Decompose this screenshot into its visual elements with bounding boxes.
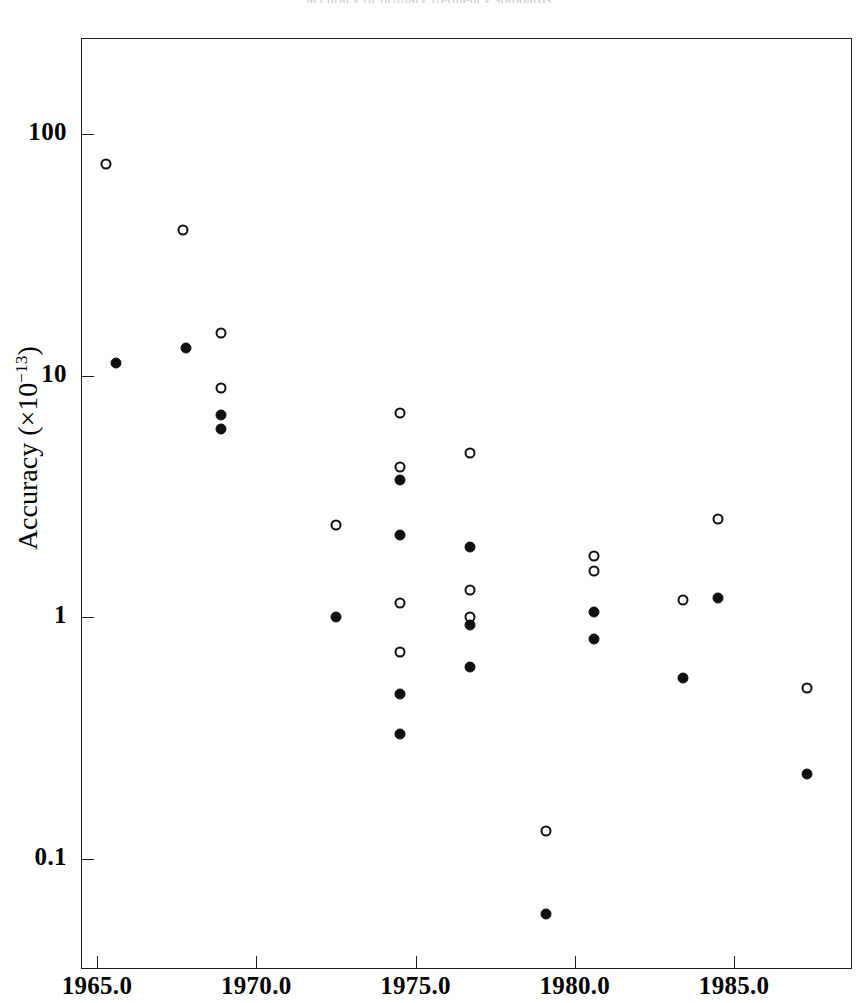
data-point-open (802, 682, 813, 693)
data-point-filled (216, 424, 227, 435)
y-axis-label-text: Accuracy (×10 (12, 383, 43, 550)
x-tick-label: 1980.0 (540, 972, 611, 1000)
x-tick-label: 1985.0 (699, 972, 770, 1000)
data-point-open (588, 550, 599, 561)
data-point-filled (464, 542, 475, 553)
data-point-filled (216, 409, 227, 420)
data-point-filled (588, 607, 599, 618)
data-point-open (394, 461, 405, 472)
cropped-title-text: accuracy of primary frequency standards (0, 0, 858, 3)
data-point-filled (394, 475, 405, 486)
data-point-filled (588, 634, 599, 645)
x-tick-label: 1975.0 (380, 972, 451, 1000)
y-axis-label-close: ) (12, 346, 43, 355)
data-point-open (216, 328, 227, 339)
x-tick-label: 1965.0 (62, 972, 133, 1000)
figure-scatter-accuracy: accuracy of primary frequency standards … (0, 0, 858, 1003)
data-point-open (588, 566, 599, 577)
data-point-open (713, 514, 724, 525)
y-tick-label: 0.1 (0, 843, 67, 871)
y-tick-label: 1 (0, 601, 67, 629)
data-point-filled (541, 909, 552, 920)
data-point-open (330, 520, 341, 531)
data-point-open (464, 447, 475, 458)
data-point-open (177, 225, 188, 236)
y-axis-label: Accuracy (×10−13) (12, 283, 44, 613)
data-point-open (394, 646, 405, 657)
data-point-filled (678, 673, 689, 684)
data-point-filled (394, 689, 405, 700)
data-point-open (216, 382, 227, 393)
data-point-filled (394, 728, 405, 739)
y-tick-label: 100 (0, 118, 67, 146)
data-point-open (464, 584, 475, 595)
data-point-open (394, 408, 405, 419)
data-point-filled (464, 662, 475, 673)
plot-data-area (81, 38, 852, 969)
data-point-filled (464, 619, 475, 630)
data-point-filled (802, 768, 813, 779)
data-point-open (101, 159, 112, 170)
data-point-open (678, 594, 689, 605)
data-point-filled (394, 529, 405, 540)
data-point-filled (713, 593, 724, 604)
data-point-filled (330, 612, 341, 623)
x-tick-label: 1970.0 (221, 972, 292, 1000)
data-point-open (394, 597, 405, 608)
data-point-filled (111, 357, 122, 368)
data-point-filled (181, 343, 192, 354)
y-tick-label: 10 (0, 360, 67, 388)
data-point-open (541, 826, 552, 837)
